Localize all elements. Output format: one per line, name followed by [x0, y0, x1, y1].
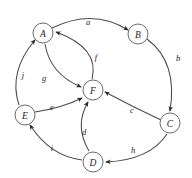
node-label-e: E: [21, 111, 28, 121]
node-f[interactable]: F: [83, 80, 103, 100]
node-label-a: A: [39, 29, 46, 39]
edge-label-i: i: [51, 143, 54, 153]
graph-canvas: abcdefghij ABCDEF: [0, 0, 192, 178]
node-label-b: B: [135, 30, 141, 40]
edge-label-j: j: [21, 70, 25, 80]
edge-label-c: c: [130, 105, 134, 115]
edge-label-h: h: [131, 145, 135, 155]
edge-e-to-f: [35, 98, 82, 112]
edge-label-f: f: [95, 52, 99, 62]
edge-label-d: d: [82, 127, 87, 137]
node-c[interactable]: C: [160, 113, 180, 133]
edge-label-g: g: [42, 73, 46, 83]
node-e[interactable]: E: [15, 105, 35, 125]
node-label-c: C: [167, 119, 174, 129]
node-label-f: F: [89, 86, 96, 96]
edge-label-e: e: [50, 102, 54, 112]
edge-label-b: b: [176, 53, 180, 63]
edge-c-to-d: [106, 134, 167, 162]
edge-a-to-f: [45, 44, 81, 87]
node-b[interactable]: B: [128, 24, 148, 44]
directed-graph-figure: abcdefghij ABCDEF: [0, 0, 192, 178]
edge-label-a: a: [86, 17, 90, 27]
nodes-layer: ABCDEF: [15, 23, 180, 172]
node-d[interactable]: D: [83, 152, 103, 172]
edge-e-to-a: [16, 40, 35, 105]
edge-f-to-a: [56, 32, 93, 79]
node-a[interactable]: A: [33, 23, 53, 43]
node-label-d: D: [89, 158, 97, 168]
edge-b-to-c: [147, 39, 172, 111]
edge-d-to-e: [30, 125, 82, 160]
